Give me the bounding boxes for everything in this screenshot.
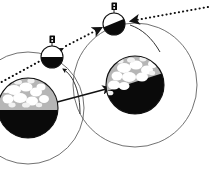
moon-left-lit-hemisphere — [40, 45, 64, 57]
incoming-light-ray-upper-right — [131, 7, 208, 21]
orbital-diagram-figure: Tidally locked moon orbiting a planet at… — [0, 0, 209, 181]
surface-marker-moon-left — [50, 36, 56, 47]
moon-left — [40, 36, 64, 71]
surface-marker-moon-top — [112, 3, 118, 14]
moon-top — [102, 3, 126, 39]
planet-left — [0, 74, 64, 144]
planet-right — [104, 54, 166, 118]
moon-orbit-direction-right-arrow — [130, 25, 160, 52]
diagram-canvas — [0, 0, 209, 181]
planet-left-dark-hemisphere — [0, 110, 64, 144]
